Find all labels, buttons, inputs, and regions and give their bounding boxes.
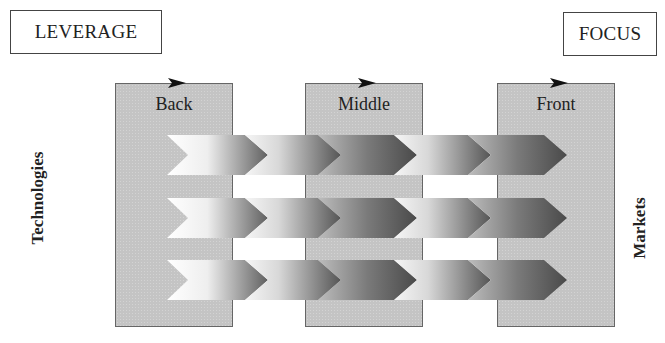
chevron-row-1 (167, 135, 567, 175)
chevron-row-3 (167, 260, 567, 300)
chevron-row-2 (167, 198, 567, 238)
chevron-flow (0, 0, 665, 343)
